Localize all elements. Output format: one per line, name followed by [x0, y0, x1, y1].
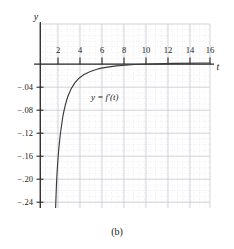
y-axis-label: y — [33, 11, 39, 22]
x-tick-label: 10 — [142, 45, 151, 55]
y-tick-labels: −.04 −.08 −.12 −.16 −.20 −.24 — [18, 82, 34, 207]
x-tick-label: 12 — [164, 45, 173, 55]
y-tick-label: −.08 — [18, 105, 33, 115]
figure-caption: (b) — [111, 226, 123, 238]
y-tick-label: −.12 — [18, 128, 33, 138]
x-tick-label: 6 — [100, 45, 104, 55]
x-axis-label: t — [217, 61, 220, 72]
x-tick-label: 4 — [78, 45, 83, 55]
y-tick-label: −.16 — [18, 151, 33, 161]
curve-f-prime — [56, 63, 210, 208]
x-tick-labels: 2 4 6 8 10 12 14 16 — [56, 45, 214, 55]
x-tick-label: 8 — [122, 45, 126, 55]
x-tick-label: 14 — [186, 45, 195, 55]
grid-minor-horizontal — [40, 30, 210, 202]
y-tick-label: −.20 — [18, 174, 33, 184]
curve-annotation-label: y = f′(t) — [90, 92, 119, 102]
x-tick-label: 2 — [56, 45, 60, 55]
x-tick-label: 16 — [206, 45, 215, 55]
y-tick-label: −.04 — [18, 82, 34, 92]
figure-container: y t 2 4 6 8 10 12 14 16 −.04 −.08 −.12 −… — [0, 0, 234, 249]
y-tick-label: −.24 — [18, 197, 34, 207]
plot-canvas: y t 2 4 6 8 10 12 14 16 −.04 −.08 −.12 −… — [0, 0, 234, 249]
